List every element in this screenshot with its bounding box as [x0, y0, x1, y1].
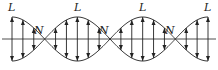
- arrowhead-up-icon: [206, 17, 210, 22]
- arrowhead-down-icon: [75, 56, 79, 61]
- antinode-label: L: [138, 1, 146, 14]
- standing-wave-diagram: LLLLNNN: [0, 0, 218, 70]
- node-label: N: [33, 24, 44, 37]
- arrowhead-up-icon: [10, 17, 14, 22]
- arrowhead-up-icon: [141, 17, 145, 22]
- antinode-label: L: [7, 1, 15, 14]
- node-label: N: [98, 24, 109, 37]
- arrowhead-down-icon: [141, 56, 145, 61]
- node-label: N: [164, 24, 175, 37]
- arrowhead-down-icon: [10, 56, 14, 61]
- arrowhead-down-icon: [206, 56, 210, 61]
- arrowhead-up-icon: [75, 17, 79, 22]
- antinode-label: L: [73, 1, 81, 14]
- antinode-label: L: [203, 1, 211, 14]
